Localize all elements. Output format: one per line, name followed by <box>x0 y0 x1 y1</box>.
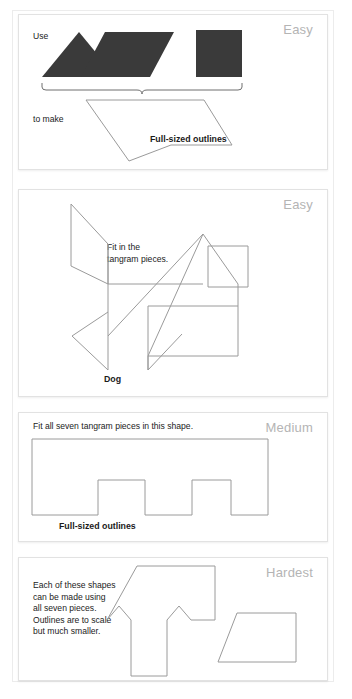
outline-arrow <box>86 100 232 161</box>
panel-easy-arrow: Easy Use to make Full-sized outlines <box>18 14 328 170</box>
dog-head <box>148 234 238 356</box>
worksheet-page: Easy Use to make Full-sized outlines Eas… <box>0 0 352 699</box>
panel-hardest: Hardest Each of these shapes can be made… <box>18 557 328 681</box>
dog-hind-leg <box>148 306 182 370</box>
dog-front-foot <box>72 312 108 370</box>
piece-square <box>196 30 242 77</box>
figure-battlement <box>19 413 327 541</box>
panel-medium: Medium Fit all seven tangram pieces in t… <box>18 412 328 542</box>
figure-hardest-outlines <box>19 558 327 680</box>
dog-ear <box>71 204 108 284</box>
outline-trapezoid <box>218 613 296 662</box>
brace-icon <box>42 83 242 94</box>
piece-parallelogram <box>81 32 174 77</box>
figure-easy-arrow <box>19 15 327 169</box>
outline-battlement <box>32 439 268 515</box>
panel-easy-dog: Easy Fit in the tangram pieces. Dog <box>18 189 328 397</box>
dog-tail-square <box>208 246 248 287</box>
outline-tee-shape <box>107 566 215 676</box>
dog-diagonal <box>108 234 203 336</box>
figure-dog <box>19 190 327 396</box>
